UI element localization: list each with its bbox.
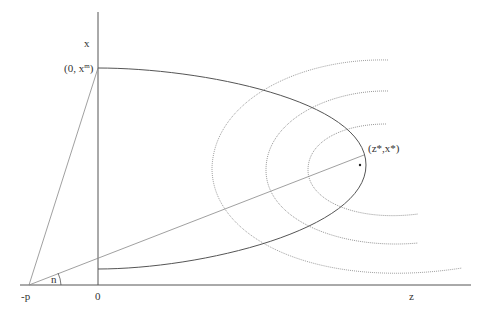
ray-to-top-intercept <box>29 68 98 285</box>
angle-label: n <box>51 274 57 285</box>
z-axis-label: z <box>409 291 414 302</box>
star-point-dot <box>359 164 361 166</box>
origin-label: 0 <box>95 291 101 302</box>
top-intercept-suffix: ) <box>90 62 94 74</box>
solid-boundary-curve <box>98 68 366 269</box>
middle-dotted-arc <box>266 91 418 244</box>
ray-to-star-point <box>29 155 364 285</box>
neg-p-label: -p <box>21 291 30 302</box>
y-axis-label: x <box>84 38 90 49</box>
top-intercept-prefix: (0, x <box>64 62 84 74</box>
diagram-canvas: x (0, xm) (z*,x*) n -p 0 z <box>0 0 492 311</box>
top-intercept-label: (0, xm) <box>64 63 93 74</box>
angle-arc <box>58 273 61 285</box>
diagram-svg <box>0 0 492 311</box>
star-point-label: (z*,x*) <box>368 143 399 154</box>
outer-dotted-arc <box>212 60 462 273</box>
inner-dotted-arc <box>308 124 418 216</box>
